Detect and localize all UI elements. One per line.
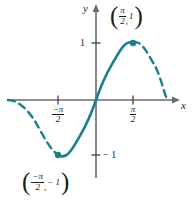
x-axis-label: x xyxy=(181,100,186,111)
right-paren-min: ) xyxy=(61,172,69,193)
x-tick-pos-denominator: 2 xyxy=(130,114,137,124)
min-x-numerator: −π xyxy=(31,172,44,181)
fraction-pi-over-2: π 2 xyxy=(130,105,137,125)
right-paren-max: ) xyxy=(135,6,143,27)
sine-function-graph: y x −π 2 π 2 1 − 1 ( π 2 , 1 ) ( xyxy=(0,0,195,203)
left-paren-max: ( xyxy=(110,6,118,27)
max-y-value: 1 xyxy=(129,11,134,21)
x-tick-label-neg-pi-over-2: −π 2 xyxy=(44,105,72,125)
max-x-numerator: π xyxy=(119,6,126,15)
x-tick-label-pi-over-2: π 2 xyxy=(121,105,145,125)
x-tick-neg-denominator: 2 xyxy=(52,114,65,124)
x-tick-neg-numerator: −π xyxy=(52,105,65,114)
left-paren-min: ( xyxy=(22,172,30,193)
y-axis-arrow xyxy=(93,4,100,12)
y-tick-label-one: 1 xyxy=(80,37,85,48)
minimum-point-marker xyxy=(55,152,61,158)
minimum-point-label: ( −π 2 , − 1 ) xyxy=(22,172,69,193)
x-tick-pos-numerator: π xyxy=(130,105,137,114)
maximum-point-marker xyxy=(130,40,136,46)
min-x-denominator: 2 xyxy=(31,182,44,192)
maximum-point-label: ( π 2 , 1 ) xyxy=(110,6,143,27)
min-y-value: − 1 xyxy=(47,177,60,187)
y-tick-label-negative-one: − 1 xyxy=(103,149,116,160)
x-axis-arrow xyxy=(172,97,180,104)
sine-curve-dashed-right xyxy=(133,42,168,100)
fraction-min-x: −π 2 xyxy=(31,172,44,192)
fraction-neg-pi-over-2: −π 2 xyxy=(52,105,65,125)
y-axis-label: y xyxy=(83,3,88,14)
